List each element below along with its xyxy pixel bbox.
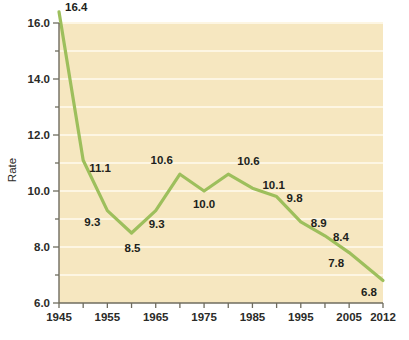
x-axis-tick-label: 1955 [95,311,121,323]
data-point-label: 9.3 [84,216,100,228]
x-axis-tick-label: 1945 [46,311,72,323]
x-axis-tick-label: 2012 [370,311,396,323]
y-axis-tick-label: 8.0 [34,241,50,253]
data-point-label: 9.3 [149,218,165,230]
data-point-label: 7.8 [328,257,345,269]
data-point-label: 16.4 [65,1,88,13]
data-point-label: 8.5 [125,242,142,254]
data-point-label: 10.0 [193,198,215,210]
y-axis-title: Rate [6,158,18,182]
x-axis-tick-label: 1985 [240,311,266,323]
y-axis-tick-label: 6.0 [34,297,50,309]
data-point-label: 10.6 [237,155,259,167]
data-point-label: 8.9 [311,217,327,229]
data-point-label: 6.8 [361,286,378,298]
y-axis-tick-label: 10.0 [28,185,50,197]
y-axis-tick-label: 16.0 [28,17,50,29]
data-point-label: 8.4 [333,231,350,243]
data-point-label: 11.1 [89,162,111,174]
line-chart: 6.08.010.012.014.016.0 19451955196519751… [0,0,409,340]
y-axis-tick-label: 12.0 [28,129,50,141]
y-axis-tick-label: 14.0 [28,73,50,85]
x-axis-tick-label: 1995 [288,311,314,323]
data-point-label: 9.8 [287,192,304,204]
chart-container: 6.08.010.012.014.016.0 19451955196519751… [0,0,409,340]
x-axis-tick-label: 1975 [191,311,217,323]
x-axis-tick-label: 1965 [143,311,169,323]
data-point-label: 10.6 [151,154,173,166]
data-point-label: 10.1 [262,179,285,191]
x-axis-tick-label: 2005 [336,311,362,323]
